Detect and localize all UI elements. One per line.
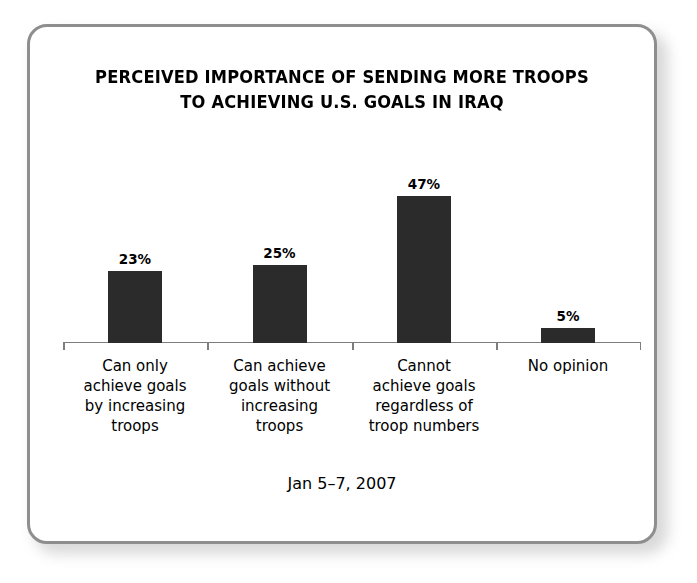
axis-tick-0: [63, 342, 65, 350]
bar-group-1: 25% Can achieve goals without increasing…: [207, 127, 352, 343]
bar-value-1: 25%: [263, 245, 295, 261]
bar-value-0: 23%: [119, 251, 151, 267]
bar-3[interactable]: [541, 328, 595, 343]
bar-group-0: 23% Can only achieve goals by increasing…: [63, 127, 207, 343]
category-label-3: No opinion: [493, 356, 643, 376]
axis-tick-4: [640, 342, 642, 350]
category-label-2: Cannot achieve goals regardless of troop…: [349, 356, 499, 436]
survey-date-footnote: Jan 5–7, 2007: [30, 474, 654, 493]
bar-0[interactable]: [108, 271, 162, 343]
axis-tick-3: [496, 342, 498, 350]
category-label-1: Can achieve goals without increasing tro…: [205, 356, 355, 436]
bar-1[interactable]: [253, 265, 307, 343]
chart-screenshot: PERCEIVED IMPORTANCE OF SENDING MORE TRO…: [0, 0, 697, 583]
bar-group-2: 47% Cannot achieve goals regardless of t…: [352, 127, 496, 343]
bar-value-2: 47%: [408, 176, 440, 192]
category-label-0: Can only achieve goals by increasing tro…: [60, 356, 210, 436]
bar-2[interactable]: [397, 196, 451, 343]
bar-group-3: 5% No opinion: [496, 127, 640, 343]
chart-card: PERCEIVED IMPORTANCE OF SENDING MORE TRO…: [27, 24, 657, 544]
axis-tick-2: [352, 342, 354, 350]
axis-tick-1: [207, 342, 209, 350]
chart-title: PERCEIVED IMPORTANCE OF SENDING MORE TRO…: [52, 65, 632, 115]
plot-area: 23% Can only achieve goals by increasing…: [63, 127, 641, 343]
bar-value-3: 5%: [557, 308, 580, 324]
